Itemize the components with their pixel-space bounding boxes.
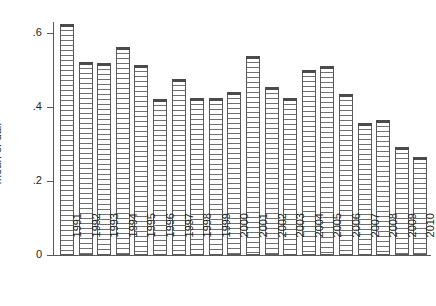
bar-chart: mean of dair 0.2.4.6 1991199219931994199…	[0, 0, 436, 306]
x-axis-tick-label: 2004	[314, 213, 325, 259]
y-axis-line	[53, 22, 54, 256]
bar-top-cap	[134, 65, 148, 68]
x-axis-tick-label: 1996	[165, 213, 176, 259]
x-axis-tick-label: 2010	[425, 213, 436, 259]
bar-top-cap	[265, 87, 279, 90]
bar-top-cap	[246, 56, 260, 59]
bar-top-cap	[172, 79, 186, 82]
x-axis-tick-label: 2003	[295, 213, 306, 259]
x-axis-tick-label: 1992	[91, 213, 102, 259]
bar-top-cap	[227, 92, 241, 95]
x-axis-tick-label: 1994	[128, 213, 139, 259]
y-axis-tick-label: .4	[2, 101, 42, 112]
y-axis-tick-label: .2	[2, 175, 42, 186]
y-axis-tick-mark	[47, 181, 54, 182]
bar-top-cap	[190, 98, 204, 101]
x-axis-tick-label: 1995	[146, 213, 157, 259]
x-axis-tick-label: 1991	[72, 213, 83, 259]
bar-top-cap	[97, 63, 111, 66]
bar-top-cap	[302, 70, 316, 73]
x-axis-tick-label: 1999	[221, 213, 232, 259]
y-axis-tick-label: 0	[2, 249, 42, 260]
bar-top-cap	[209, 98, 223, 101]
x-axis-tick-label: 2005	[332, 213, 343, 259]
x-axis-tick-label: 2008	[388, 213, 399, 259]
y-axis-tick-mark	[47, 107, 54, 108]
bar-top-cap	[320, 66, 334, 69]
x-axis-tick-label: 1998	[202, 213, 213, 259]
bar-top-cap	[116, 47, 130, 50]
y-axis-tick-label: .6	[2, 27, 42, 38]
bar-top-cap	[413, 157, 427, 160]
bar-top-cap	[339, 94, 353, 97]
bar-top-cap	[395, 147, 409, 150]
bar-top-cap	[153, 99, 167, 102]
x-axis-tick-label: 2006	[351, 213, 362, 259]
x-axis-tick-label: 2000	[239, 213, 250, 259]
y-axis-title: mean of dair	[0, 0, 26, 306]
bar-top-cap	[376, 120, 390, 123]
x-axis-tick-label: 2002	[277, 213, 288, 259]
bar-top-cap	[60, 24, 74, 27]
y-axis-tick-mark	[47, 33, 54, 34]
y-axis-tick-mark	[47, 255, 54, 256]
x-axis-tick-label: 2009	[407, 213, 418, 259]
x-axis-tick-label: 1997	[184, 213, 195, 259]
x-axis-tick-label: 2001	[258, 213, 269, 259]
bar-top-cap	[358, 123, 372, 126]
bar-top-cap	[79, 62, 93, 65]
bar-top-cap	[283, 98, 297, 101]
x-axis-tick-label: 1993	[109, 213, 120, 259]
x-axis-tick-label: 2007	[370, 213, 381, 259]
